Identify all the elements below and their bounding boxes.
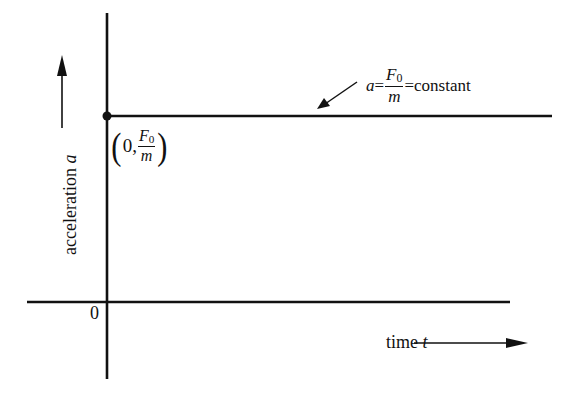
y-direction-arrow-icon bbox=[57, 55, 67, 128]
fraction-denominator: m bbox=[388, 87, 400, 105]
close-paren: ) bbox=[158, 127, 168, 165]
x-axis-variable: t bbox=[423, 332, 428, 352]
equation-label: a = F0 m = constant bbox=[366, 66, 471, 105]
point-numerator: F bbox=[139, 127, 149, 144]
point-coordinate-label: ( 0, F0 m ) bbox=[110, 127, 169, 165]
y-axis-label: acceleration a bbox=[60, 155, 81, 255]
y-axis-label-text: acceleration bbox=[60, 164, 80, 255]
origin-label: 0 bbox=[90, 303, 99, 324]
pointer-arrow-icon bbox=[317, 82, 357, 109]
x-direction-arrow-icon bbox=[414, 338, 528, 348]
equation-equals-2: = bbox=[404, 76, 414, 96]
open-paren: ( bbox=[111, 127, 121, 165]
start-point-dot bbox=[103, 112, 112, 121]
equation-lhs: a bbox=[366, 76, 375, 96]
y-axis-variable: a bbox=[60, 155, 80, 164]
fraction-subscript: 0 bbox=[396, 71, 402, 85]
acceleration-time-graph: a = F0 m = constant ( 0, F0 m ) 0 time t… bbox=[0, 0, 571, 402]
equation-rhs: constant bbox=[414, 76, 471, 96]
equation-fraction: F0 m bbox=[385, 66, 403, 105]
graph-svg bbox=[0, 0, 571, 402]
point-subscript: 0 bbox=[149, 133, 155, 145]
fraction-numerator: F bbox=[386, 65, 396, 84]
point-x: 0, bbox=[123, 135, 137, 157]
point-fraction: F0 m bbox=[138, 128, 155, 164]
x-axis-label-text: time bbox=[386, 332, 423, 352]
point-denominator: m bbox=[141, 147, 153, 164]
equation-equals: = bbox=[375, 76, 385, 96]
x-axis-label: time t bbox=[386, 332, 428, 353]
